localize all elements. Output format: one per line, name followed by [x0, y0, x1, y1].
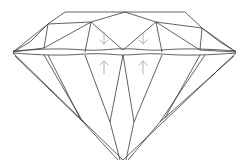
pavilion-center-kite [110, 55, 134, 122]
far-right-kite-line [200, 28, 202, 50]
crown [13, 12, 236, 52]
arrow-up-icon [100, 61, 108, 74]
direction-arrows [100, 32, 147, 74]
pavilion-left-main [15, 56, 118, 160]
pavilion-outline [13, 53, 236, 160]
arrow-up-icon [139, 61, 147, 74]
pavilion [13, 53, 236, 160]
pavilion-left-extra [48, 55, 80, 118]
arrow-down-icon [100, 32, 108, 44]
left-upper-girdle [13, 22, 91, 52]
right-upper-girdle [156, 22, 236, 52]
girdle-bottom-line [13, 53, 236, 55]
crown-outline [48, 12, 202, 28]
pavilion-right-main [128, 56, 234, 160]
left-kite-line [85, 22, 91, 52]
girdle [13, 49, 236, 55]
pavilion-left-inner [85, 55, 120, 160]
pavilion-right-extra [165, 55, 200, 118]
center-kite [91, 22, 156, 50]
right-kite-line [156, 22, 162, 52]
arrow-down-icon [139, 32, 147, 44]
star-facets [48, 12, 202, 28]
diamond-diagram [0, 0, 250, 162]
